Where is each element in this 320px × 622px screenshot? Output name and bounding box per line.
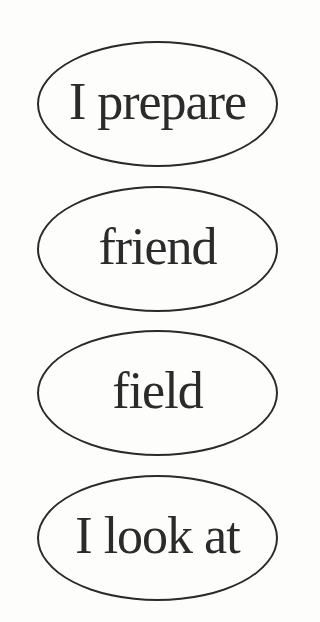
word-card-3: field: [37, 330, 278, 456]
word-card-1: I prepare: [37, 41, 278, 167]
word-card-label: friend: [98, 221, 216, 273]
word-card-label: I prepare: [69, 76, 246, 128]
word-card-4: I look at: [37, 475, 278, 601]
word-card-label: field: [112, 365, 202, 417]
word-card-2: friend: [37, 186, 278, 312]
word-card-label: I look at: [75, 510, 239, 562]
